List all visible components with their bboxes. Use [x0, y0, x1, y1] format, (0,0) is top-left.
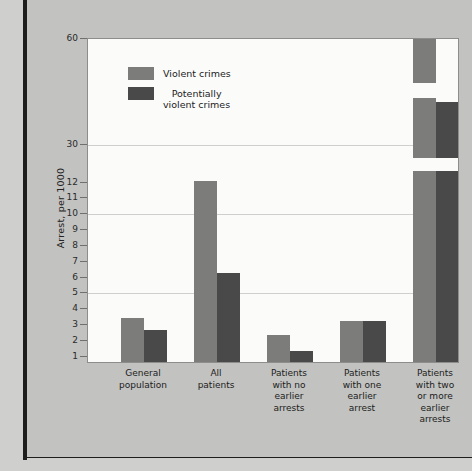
scanned-figure-page: Arrest, per 1000 Violent crimes Potentia… — [0, 0, 472, 471]
y-tick-label-10: 10 — [67, 213, 78, 214]
y-tick-label-4: 4 — [72, 308, 78, 309]
page-bottom-margin — [0, 458, 472, 471]
y-tick-mark-60 — [80, 38, 87, 39]
y-tick-label-3: 3 — [72, 324, 78, 325]
y-tick-label-1: 1 — [72, 356, 78, 357]
y-tick-mark-8 — [80, 245, 87, 246]
y-tick-label-7: 7 — [72, 261, 78, 262]
y-tick-label-9: 9 — [72, 229, 78, 230]
y-tick-label-12: 12 — [67, 182, 78, 183]
page-left-margin — [0, 0, 23, 471]
y-tick-mark-2 — [80, 340, 87, 341]
y-axis-title: Arrest, per 1000 — [55, 148, 66, 268]
y-tick-label-60: 60 — [67, 38, 78, 39]
y-tick-mark-3 — [80, 324, 87, 325]
y-tick-mark-7 — [80, 261, 87, 262]
y-tick-label-11: 11 — [67, 197, 78, 198]
y-tick-mark-30 — [80, 144, 87, 145]
x-axis-category-group: General populationAll patientsPatients w… — [87, 368, 459, 454]
y-tick-mark-10 — [80, 213, 87, 214]
y-tick-mark-1 — [80, 356, 87, 357]
y-axis-tick-group: 6030121110987654321 — [87, 38, 459, 363]
bar-chart-figure: Arrest, per 1000 Violent crimes Potentia… — [27, 0, 472, 457]
y-tick-label-8: 8 — [72, 245, 78, 246]
y-tick-label-5: 5 — [72, 292, 78, 293]
y-tick-mark-12 — [80, 182, 87, 183]
y-tick-mark-6 — [80, 277, 87, 278]
y-tick-mark-11 — [80, 197, 87, 198]
y-tick-mark-9 — [80, 229, 87, 230]
y-tick-label-6: 6 — [72, 277, 78, 278]
x-axis-category-label-4: Patients with two or more earlier arrest… — [389, 368, 472, 426]
y-tick-mark-4 — [80, 308, 87, 309]
y-tick-mark-5 — [80, 292, 87, 293]
y-tick-label-2: 2 — [72, 340, 78, 341]
y-tick-label-30: 30 — [67, 144, 78, 145]
